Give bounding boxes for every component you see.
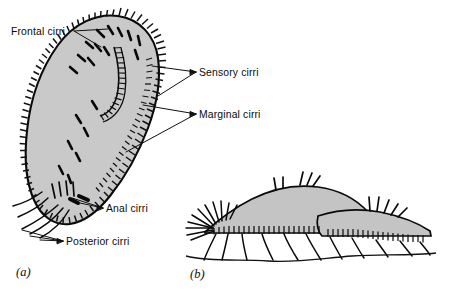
label-posterior-cirri: Posterior cirri	[66, 236, 129, 247]
ciliate-diagram: Frontal cirri Sensory cirri Marginal cir…	[0, 0, 460, 295]
label-frontal-cirri: Frontal cirri	[11, 26, 65, 37]
panel-label-b: (b)	[190, 267, 205, 281]
substrate-contact-cirri-b	[204, 234, 430, 260]
label-sensory-cirri: Sensory cirri	[199, 67, 259, 78]
label-marginal-cirri: Marginal cirri	[199, 109, 261, 120]
label-anal-cirri: Anal cirri	[106, 203, 148, 214]
panel-a-group: Frontal cirri Sensory cirri Marginal cir…	[11, 8, 261, 279]
panel-label-a: (a)	[16, 265, 31, 279]
figure-root: Frontal cirri Sensory cirri Marginal cir…	[0, 0, 460, 295]
posterior-lobe-b	[317, 210, 431, 236]
panel-b-group: (b)	[186, 172, 436, 281]
